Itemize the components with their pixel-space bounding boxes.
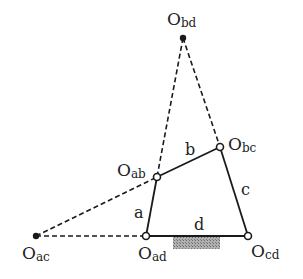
- label-link-d: d: [194, 215, 204, 234]
- joint-oac-dot: [33, 233, 39, 239]
- label-link-a: a: [134, 203, 144, 222]
- label-obc: Obc: [228, 134, 257, 155]
- dashed-line-bd-ab: [157, 38, 183, 177]
- joint-ocd: [245, 233, 252, 240]
- link-a: [146, 177, 157, 236]
- dashed-line-bd-bc: [183, 38, 220, 147]
- ground-hatch: [173, 237, 220, 249]
- joint-oad: [143, 233, 150, 240]
- joint-oab: [154, 174, 161, 181]
- joint-obd-dot: [180, 35, 186, 41]
- label-link-b: b: [185, 140, 195, 159]
- linkage-diagram: Obd Obc Oab Oad Ocd Oac a b c d: [0, 0, 303, 279]
- label-oac: Oac: [22, 243, 50, 264]
- label-ocd: Ocd: [251, 241, 280, 262]
- label-oab: Oab: [117, 160, 146, 181]
- label-link-c: c: [241, 180, 250, 199]
- label-obd: Obd: [167, 9, 197, 30]
- label-oad: Oad: [138, 243, 167, 264]
- joint-obc: [217, 144, 224, 151]
